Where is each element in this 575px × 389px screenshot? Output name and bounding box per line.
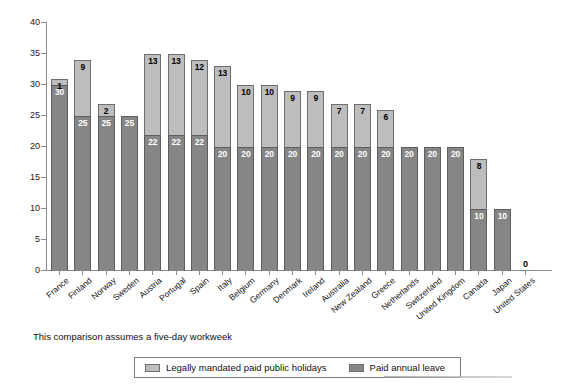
bar-segment-public-holidays[interactable]: 9: [74, 60, 91, 116]
stacked-bar[interactable]: 2013: [214, 66, 231, 271]
bar-segment-public-holidays[interactable]: 13: [214, 66, 231, 147]
x-tick-mark: [129, 271, 130, 275]
bar-group[interactable]: 2013: [214, 22, 231, 271]
x-tick-mark: [176, 271, 177, 275]
bar-group[interactable]: 209: [284, 22, 301, 271]
bar-group[interactable]: 301: [51, 22, 68, 271]
bar-segment-annual-leave[interactable]: 22: [168, 135, 185, 271]
bar-segment-public-holidays[interactable]: 6: [377, 110, 394, 147]
stacked-bar[interactable]: 301: [51, 79, 68, 271]
bar-group[interactable]: 209: [307, 22, 324, 271]
x-tick-mark: [106, 271, 107, 275]
stacked-bar[interactable]: 207: [331, 104, 348, 271]
bar-group[interactable]: 0: [517, 22, 534, 271]
bar-segment-annual-leave[interactable]: 10: [494, 209, 511, 271]
bar-segment-annual-leave[interactable]: 20: [261, 147, 278, 271]
bar-value-label: 8: [477, 160, 482, 170]
legend-label-annual-leave: Paid annual leave: [370, 362, 446, 373]
bar-segment-public-holidays[interactable]: 7: [354, 104, 371, 147]
bar-group[interactable]: 206: [377, 22, 394, 271]
stacked-bar[interactable]: 25: [121, 116, 138, 271]
bar-value-label: 20: [428, 148, 437, 158]
bar-segment-annual-leave[interactable]: 10: [470, 209, 487, 271]
x-tick-mark: [362, 271, 363, 275]
bar-group[interactable]: 207: [331, 22, 348, 271]
bar-segment-annual-leave[interactable]: 25: [74, 116, 91, 271]
bar-segment-annual-leave[interactable]: 22: [144, 135, 161, 271]
bar-value-label: 10: [474, 210, 483, 220]
bar-group[interactable]: 252: [98, 22, 115, 271]
bar-segment-annual-leave[interactable]: 30: [51, 85, 68, 271]
bar-segment-annual-leave[interactable]: 25: [121, 116, 138, 271]
bar-segment-annual-leave[interactable]: 20: [354, 147, 371, 271]
bar-segment-public-holidays[interactable]: 8: [470, 159, 487, 209]
bar-segment-annual-leave[interactable]: 25: [98, 116, 115, 271]
bar-group[interactable]: 2010: [237, 22, 254, 271]
x-tick-mark: [152, 271, 153, 275]
bar-group[interactable]: 25: [121, 22, 138, 271]
bar-segment-public-holidays[interactable]: 1: [51, 79, 68, 85]
bar-group[interactable]: 20: [401, 22, 418, 271]
stacked-bar[interactable]: 2213: [168, 54, 185, 271]
stacked-bar[interactable]: 2212: [191, 60, 208, 271]
bar-group[interactable]: 259: [74, 22, 91, 271]
scan-artifact: [384, 376, 512, 378]
stacked-bar[interactable]: 108: [470, 159, 487, 271]
stacked-bar[interactable]: 20: [447, 147, 464, 271]
stacked-bar[interactable]: 252: [98, 104, 115, 271]
bar-group[interactable]: 207: [354, 22, 371, 271]
bar-group[interactable]: 2212: [191, 22, 208, 271]
chart-footnote: This comparison assumes a five-day workw…: [33, 331, 232, 342]
bar-segment-public-holidays[interactable]: 13: [168, 54, 185, 135]
bar-value-label: 22: [148, 136, 157, 146]
bar-segment-public-holidays[interactable]: 9: [307, 91, 324, 147]
bar-value-label: 13: [171, 55, 180, 65]
stacked-bar[interactable]: 10: [494, 209, 511, 271]
bar-segment-annual-leave[interactable]: 20: [237, 147, 254, 271]
bar-group[interactable]: 2010: [261, 22, 278, 271]
stacked-bar[interactable]: 209: [284, 91, 301, 271]
bar-segment-public-holidays[interactable]: 9: [284, 91, 301, 147]
bar-value-label: 10: [265, 86, 274, 96]
bar-segment-public-holidays[interactable]: 10: [237, 85, 254, 147]
chart-figure: 0510152025303540 30125925225221322132212…: [0, 0, 575, 389]
stacked-bar[interactable]: 2010: [261, 85, 278, 271]
bar-value-label: 13: [218, 67, 227, 77]
bar-segment-annual-leave[interactable]: 20: [447, 147, 464, 271]
y-tick-label: 10: [0, 204, 40, 213]
bar-value-label: 9: [290, 92, 295, 102]
bar-segment-annual-leave[interactable]: 20: [401, 147, 418, 271]
legend-swatch-annual-leave: [349, 364, 364, 372]
bar-value-label: 20: [381, 148, 390, 158]
bar-value-label: 7: [337, 105, 342, 115]
x-tick-mark: [478, 271, 479, 275]
bar-group[interactable]: 2213: [168, 22, 185, 271]
stacked-bar[interactable]: 2010: [237, 85, 254, 271]
bar-segment-annual-leave[interactable]: 22: [191, 135, 208, 271]
bar-segment-annual-leave[interactable]: 20: [214, 147, 231, 271]
stacked-bar[interactable]: 209: [307, 91, 324, 271]
bar-group[interactable]: 20: [424, 22, 441, 271]
stacked-bar[interactable]: 2213: [144, 54, 161, 271]
bar-segment-annual-leave[interactable]: 20: [377, 147, 394, 271]
bar-segment-public-holidays[interactable]: 10: [261, 85, 278, 147]
bar-segment-public-holidays[interactable]: 13: [144, 54, 161, 135]
bar-segment-annual-leave[interactable]: 20: [424, 147, 441, 271]
bar-group[interactable]: 108: [470, 22, 487, 271]
stacked-bar[interactable]: 206: [377, 110, 394, 271]
bar-segment-annual-leave[interactable]: 20: [284, 147, 301, 271]
stacked-bar[interactable]: 20: [401, 147, 418, 271]
bar-group[interactable]: 2213: [144, 22, 161, 271]
bar-group[interactable]: 20: [447, 22, 464, 271]
stacked-bar[interactable]: 20: [424, 147, 441, 271]
bar-segment-public-holidays[interactable]: 12: [191, 60, 208, 134]
bar-value-label: 20: [311, 148, 320, 158]
bar-segment-public-holidays[interactable]: 7: [331, 104, 348, 147]
bar-segment-annual-leave[interactable]: 20: [307, 147, 324, 271]
bar-group[interactable]: 10: [494, 22, 511, 271]
bar-segment-public-holidays[interactable]: 2: [98, 104, 115, 116]
stacked-bar[interactable]: 259: [74, 60, 91, 271]
stacked-bar[interactable]: 207: [354, 104, 371, 271]
x-tick-mark: [409, 271, 410, 275]
bar-segment-annual-leave[interactable]: 20: [331, 147, 348, 271]
